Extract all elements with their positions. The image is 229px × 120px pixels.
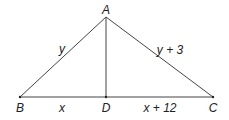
- side-label-bd: x: [58, 101, 66, 115]
- vertex-label-b: B: [16, 101, 24, 115]
- vertex-label-a: A: [101, 3, 110, 17]
- segment-ab: [20, 17, 106, 97]
- side-label-dc: x + 12: [142, 101, 176, 115]
- triangle-diagram: A B C D y y + 3 x x + 12: [0, 0, 229, 120]
- side-label-ac: y + 3: [156, 43, 184, 57]
- vertex-label-c: C: [209, 101, 218, 115]
- point-b: [19, 96, 21, 98]
- side-label-ab: y: [58, 42, 66, 56]
- vertex-label-d: D: [102, 101, 111, 115]
- segment-ac: [106, 17, 213, 97]
- point-c: [212, 96, 214, 98]
- point-d: [105, 96, 107, 98]
